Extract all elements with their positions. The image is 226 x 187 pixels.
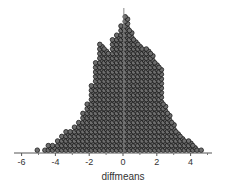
dot-plot-chart: -6-4-2024 diffmeans [0,0,226,187]
x-axis-title: diffmeans [101,171,144,182]
data-points [35,14,204,152]
data-point [178,134,183,139]
data-point [127,28,132,33]
data-point [165,111,170,116]
data-point [148,51,153,56]
data-point [50,143,55,148]
data-point [131,38,136,43]
data-point [169,120,174,125]
data-point [144,47,149,52]
data-point [153,61,158,66]
data-point [35,148,40,153]
x-tick-label: 2 [154,157,159,167]
data-point [136,42,141,47]
x-tick-label: -2 [85,157,93,167]
data-point [174,130,179,135]
data-point [191,143,196,148]
data-point [157,65,162,70]
data-point [98,42,103,47]
x-tick-label: -4 [51,157,59,167]
x-axis-ticks: -6-4-2024 [18,153,208,167]
data-point [102,47,107,52]
x-tick-label: -6 [18,157,26,167]
x-tick-label: 0 [120,157,125,167]
x-tick-label: 4 [188,157,193,167]
data-point [199,148,204,153]
data-point [161,102,166,107]
data-point [186,139,191,144]
